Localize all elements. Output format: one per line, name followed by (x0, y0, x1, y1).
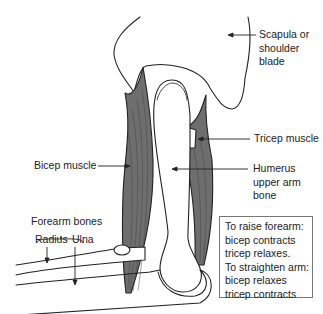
humerus-label-line: Humerus (253, 162, 301, 176)
info-line: bicep contracts (225, 234, 312, 248)
info-line: bicep relaxes (225, 274, 312, 288)
info-line: To straighten arm: (225, 261, 312, 275)
scapula-label-line: shoulder (259, 42, 309, 56)
radius-label: Radius (35, 233, 68, 247)
humerus-label-line: bone (253, 189, 301, 203)
ulna-bone (16, 270, 160, 285)
info-line: tricep contracts (225, 288, 312, 302)
ulna-label: Ulna (72, 233, 94, 247)
tricep-muscle (188, 95, 213, 265)
muscle-action-info-box: To raise forearm: bicep contracts tricep… (219, 216, 313, 298)
forearm-bones-label: Forearm bones (31, 215, 102, 229)
humerus-label-line: upper arm (253, 176, 301, 190)
scapula-label: Scapula or shoulder blade (259, 28, 309, 69)
info-line: tricep relaxes. (225, 247, 312, 261)
scapula-label-line: Scapula or (259, 28, 309, 42)
bicep-label: Bicep muscle (34, 159, 96, 173)
info-line: To raise forearm: (225, 220, 312, 234)
scapula-label-line: blade (259, 55, 309, 69)
tricep-label: Tricep muscle (254, 132, 319, 146)
humerus-label: Humerus upper arm bone (253, 162, 301, 203)
bicep-tendon-attachment (114, 245, 130, 255)
